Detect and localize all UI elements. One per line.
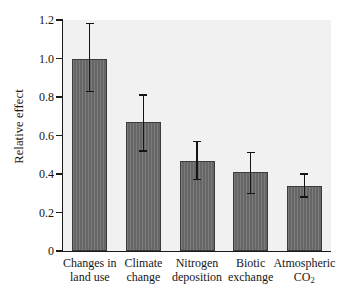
- error-bar-cap-lower-0: [86, 91, 94, 92]
- x-axis-label-0: Changes inland use: [59, 256, 121, 284]
- error-bar-cap-upper-4: [300, 173, 308, 174]
- x-axis-label-0-line-0: Changes in: [63, 256, 117, 270]
- error-bar-cap-upper-1: [139, 94, 147, 95]
- x-axis-label-2-line-0: Nitrogen: [176, 256, 219, 270]
- error-bar-line-0: [89, 24, 90, 91]
- x-axis-label-4-line-0: Atmospheric: [273, 256, 335, 270]
- x-axis-label-3: Bioticexchange: [220, 256, 282, 284]
- y-axis-tick-5: [56, 58, 63, 59]
- y-axis-tick-4: [56, 96, 63, 97]
- x-axis-line: [62, 251, 331, 252]
- y-axis-tick-label-6: 1.2: [14, 13, 54, 28]
- x-axis-label-2: Nitrogendeposition: [166, 256, 228, 284]
- y-axis-tick-label-0: 0: [14, 244, 54, 259]
- x-axis-label-1-line-0: Climate: [124, 256, 162, 270]
- error-bar-cap-lower-1: [139, 150, 147, 151]
- y-axis-tick-label-4: 0.8: [14, 90, 54, 105]
- y-axis-tick-0: [56, 250, 63, 251]
- error-bar-cap-upper-3: [247, 152, 255, 153]
- x-axis-label-4-line-1: CO2: [273, 270, 335, 287]
- x-axis-label-4: AtmosphericCO2: [273, 256, 335, 287]
- x-axis-label-2-line-1: deposition: [166, 270, 228, 284]
- error-bar-cap-lower-3: [247, 193, 255, 194]
- x-axis-label-1: Climatechange: [113, 256, 175, 284]
- x-axis-label-1-line-1: change: [113, 270, 175, 284]
- error-bar-line-3: [250, 153, 251, 193]
- error-bar-cap-upper-2: [193, 141, 201, 142]
- y-axis-tick-1: [56, 212, 63, 213]
- x-axis-label-0-line-1: land use: [59, 270, 121, 284]
- bar-chart-figure: Relative effect 00.20.40.60.81.01.2 Chan…: [0, 0, 348, 301]
- y-axis-tick-6: [56, 19, 63, 20]
- error-bar-cap-lower-4: [300, 196, 308, 197]
- y-axis-tick-label-3: 0.6: [14, 128, 54, 143]
- y-axis-tick-label-5: 1.0: [14, 51, 54, 66]
- error-bar-line-2: [196, 141, 197, 180]
- error-bar-cap-lower-2: [193, 179, 201, 180]
- error-bar-line-4: [304, 174, 305, 197]
- error-bar-cap-upper-0: [86, 23, 94, 24]
- error-bar-line-1: [143, 95, 144, 151]
- y-axis-tick-3: [56, 135, 63, 136]
- y-axis-tick-2: [56, 173, 63, 174]
- y-axis-tick-label-1: 0.2: [14, 205, 54, 220]
- y-axis-tick-label-2: 0.4: [14, 167, 54, 182]
- x-axis-label-3-line-0: Biotic: [236, 256, 265, 270]
- x-axis-label-3-line-1: exchange: [220, 270, 282, 284]
